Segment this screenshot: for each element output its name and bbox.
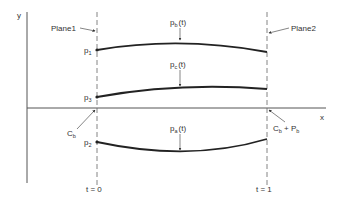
curve-pc <box>97 87 267 97</box>
point-p1 <box>95 48 98 51</box>
curve-pb <box>97 43 267 52</box>
curve-pa <box>97 139 267 151</box>
bezier-planes-diagram: y x Plane1 Plane2 p1 p3 p2 pb(t) pc(t) p… <box>0 0 343 203</box>
label-p3: p3 <box>84 93 92 103</box>
plane2-label: Plane2 <box>291 24 316 33</box>
arrow-cb <box>77 110 95 129</box>
label-p2: p2 <box>84 138 92 148</box>
point-p3 <box>95 95 98 98</box>
y-axis-label: y <box>17 11 21 20</box>
label-cb-plus-pb: Cb + Pb <box>273 124 299 134</box>
plane1-arrow <box>80 28 95 31</box>
arrow-cb-plus-pb <box>269 110 285 122</box>
label-pb-t: pb(t) <box>170 18 186 28</box>
label-p1: p1 <box>84 46 92 56</box>
label-t1: t = 1 <box>256 185 272 194</box>
label-pa-t: pa(t) <box>170 124 186 134</box>
label-t0: t = 0 <box>86 185 102 194</box>
plane1-label: Plane1 <box>51 24 76 33</box>
label-pc-t: pc(t) <box>170 60 186 70</box>
label-cb: Cb <box>67 129 76 139</box>
x-axis-label: x <box>320 113 324 122</box>
point-p2 <box>95 140 98 143</box>
plane2-arrow <box>269 28 289 33</box>
